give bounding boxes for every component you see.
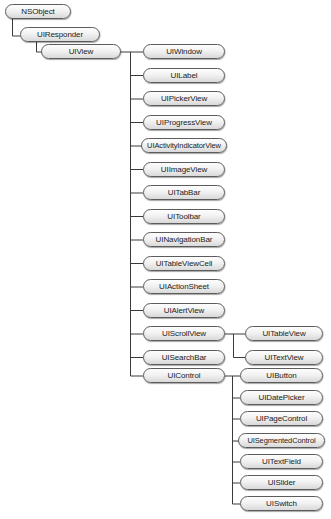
node-uiswitch: UISwitch — [240, 496, 323, 511]
node-uiimageview: UIImageView — [143, 162, 225, 177]
node-uiscrollview: UIScrollView — [143, 326, 225, 341]
node-uiprogressview: UIProgressView — [143, 115, 225, 130]
class-hierarchy-diagram: NSObject UIResponder UIView UIWindow UIL… — [0, 0, 331, 519]
node-uipickerview: UIPickerView — [143, 91, 225, 106]
node-uitabbar: UITabBar — [143, 185, 225, 200]
node-uinavigationbar: UINavigationBar — [143, 232, 225, 247]
node-uitoolbar: UIToolbar — [143, 209, 225, 224]
node-uisegmentedcontrol: UISegmentedControl — [238, 433, 325, 448]
node-uiactionsheet: UIActionSheet — [143, 279, 225, 294]
node-uislider: UISlider — [240, 475, 323, 490]
node-uibutton: UIButton — [240, 368, 323, 383]
node-uidatepicker: UIDatePicker — [240, 390, 323, 405]
node-uitextfield: UITextField — [240, 454, 323, 469]
node-nsobject: NSObject — [5, 4, 71, 19]
node-uipagecontrol: UIPageControl — [240, 411, 323, 426]
node-uiactivityindicatorview: UIActivityIndicatorView — [141, 138, 227, 153]
node-uisearchbar: UISearchBar — [143, 350, 225, 365]
node-uilabel: UILabel — [143, 68, 225, 83]
node-uiresponder: UIResponder — [20, 27, 100, 42]
node-uitableviewcell: UITableViewCell — [143, 256, 225, 271]
node-uiwindow: UIWindow — [143, 44, 225, 59]
node-uiview: UIView — [41, 44, 121, 59]
node-uitextview: UITextView — [245, 350, 323, 365]
node-uitableview: UITableView — [245, 326, 323, 341]
node-uialertview: UIAlertView — [143, 303, 225, 318]
node-uicontrol: UIControl — [143, 368, 225, 383]
